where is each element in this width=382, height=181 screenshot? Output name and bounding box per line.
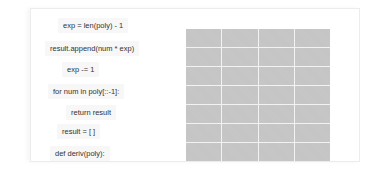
drop-slot[interactable] (259, 67, 294, 85)
drop-slot[interactable] (295, 48, 330, 66)
code-block[interactable]: return result (66, 105, 116, 120)
drop-slot[interactable] (295, 124, 330, 142)
drop-slot[interactable] (186, 105, 221, 123)
drop-slot[interactable] (222, 105, 257, 123)
drop-slot[interactable] (222, 67, 257, 85)
drop-slot[interactable] (222, 124, 257, 142)
drop-slot[interactable] (295, 67, 330, 85)
drop-slot[interactable] (186, 29, 221, 47)
drop-slot[interactable] (186, 124, 221, 142)
drop-slot[interactable] (259, 124, 294, 142)
drop-slot[interactable] (259, 48, 294, 66)
drop-slot[interactable] (259, 105, 294, 123)
drop-slot[interactable] (186, 143, 221, 161)
code-block[interactable]: result.append(num * exp) (45, 41, 139, 56)
drop-slot[interactable] (295, 143, 330, 161)
drop-slot[interactable] (222, 143, 257, 161)
drop-slot[interactable] (259, 29, 294, 47)
drop-slot[interactable] (295, 29, 330, 47)
code-block[interactable]: exp = len(poly) - 1 (58, 18, 128, 33)
drop-slot[interactable] (186, 67, 221, 85)
drop-slot[interactable] (259, 143, 294, 161)
drop-slot[interactable] (186, 86, 221, 104)
code-block[interactable]: exp -= 1 (62, 62, 99, 77)
code-block[interactable]: for num in poly[::-1]: (48, 84, 124, 99)
drop-grid[interactable] (186, 29, 330, 161)
drop-slot[interactable] (295, 105, 330, 123)
code-block[interactable]: result = [ ] (57, 124, 100, 139)
drop-slot[interactable] (222, 86, 257, 104)
drop-slot[interactable] (295, 86, 330, 104)
drop-slot[interactable] (259, 86, 294, 104)
code-block[interactable]: def deriv(poly): (50, 146, 110, 161)
drop-slot[interactable] (222, 48, 257, 66)
drop-slot[interactable] (186, 48, 221, 66)
drop-slot[interactable] (222, 29, 257, 47)
